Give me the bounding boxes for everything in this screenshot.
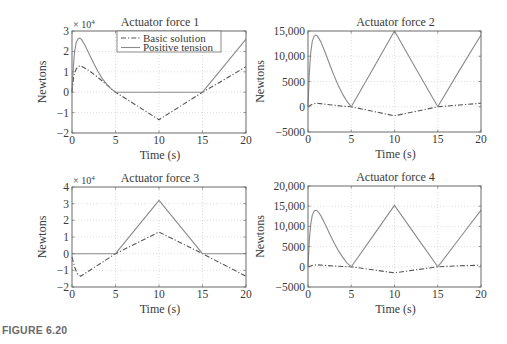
y-multiplier: × 104: [73, 18, 95, 30]
y-tick-label: 5000: [282, 76, 305, 88]
x-tick-label: 20: [475, 133, 487, 145]
subplot-title: Actuator force 1: [121, 15, 200, 29]
x-axis-label: Time (s): [375, 302, 416, 316]
y-axis-label: Newtons: [253, 60, 267, 103]
x-tick-label: 0: [69, 288, 75, 300]
x-tick-label: 15: [197, 134, 209, 146]
grid: [308, 31, 481, 132]
x-tick-label: 15: [197, 288, 209, 300]
y-tick-label: 3: [63, 198, 69, 210]
subplot-2: 05101520−50000500010,00015,000Actuator f…: [253, 15, 487, 161]
grid: [308, 186, 481, 287]
x-tick-label: 0: [305, 133, 311, 145]
subplot-title: Actuator force 3: [121, 171, 200, 185]
subplot-title: Actuator force 4: [356, 170, 435, 184]
y-tick-label: 1: [63, 66, 69, 78]
x-tick-label: 5: [348, 133, 354, 145]
x-tick-label: 15: [432, 133, 444, 145]
y-tick-label: 10,000: [273, 50, 305, 63]
y-tick-label: 1: [63, 231, 69, 243]
y-tick-label: −5000: [276, 126, 306, 138]
x-tick-label: 20: [240, 134, 252, 146]
y-tick-label: 0: [299, 261, 305, 273]
y-tick-label: 0: [63, 86, 69, 98]
figure-canvas: 05101520−2−10123× 104Actuator force 1Tim…: [0, 0, 507, 344]
figure-caption: FIGURE 6.20: [2, 324, 67, 336]
x-tick-label: 20: [475, 288, 487, 300]
subplot-1: 05101520−2−10123× 104Actuator force 1Tim…: [35, 15, 252, 162]
y-tick-label: 2: [63, 214, 69, 226]
x-axis-label: Time (s): [140, 148, 181, 162]
y-tick-label: 0: [299, 101, 305, 113]
x-tick-label: 5: [113, 288, 119, 300]
subplot-3: 05101520−2−101234× 104Actuator force 3Ti…: [35, 171, 252, 316]
legend: Basic solutionPositive tension: [117, 31, 221, 53]
y-tick-label: 10,000: [273, 220, 305, 233]
x-tick-label: 15: [432, 288, 444, 300]
y-tick-label: 15,000: [273, 200, 305, 213]
y-axis-label: Newtons: [35, 60, 49, 103]
basic-solution-line: [308, 265, 481, 273]
y-axis-label: Newtons: [253, 215, 267, 258]
y-tick-label: 4: [63, 181, 69, 193]
y-tick-label: 5000: [282, 241, 305, 253]
x-tick-label: 10: [389, 133, 401, 145]
x-tick-label: 10: [389, 288, 401, 300]
y-tick-label: 2: [63, 45, 69, 57]
grid: [72, 187, 246, 287]
y-tick-label: 15,000: [273, 25, 305, 38]
positive-tension-line: [308, 205, 481, 266]
y-tick-label: −2: [57, 281, 69, 293]
subplot-4: 05101520−50000500010,00015,00020,000Actu…: [253, 170, 487, 316]
legend-entry: Positive tension: [143, 41, 213, 53]
x-axis-label: Time (s): [140, 302, 181, 316]
y-tick-label: 0: [63, 248, 69, 260]
x-tick-label: 10: [153, 288, 165, 300]
y-tick-label: −1: [57, 264, 69, 276]
subplot-title: Actuator force 2: [356, 15, 435, 29]
positive-tension-line: [308, 31, 481, 107]
y-tick-label: 3: [63, 25, 69, 37]
y-tick-label: −2: [57, 127, 69, 139]
y-tick-label: −1: [57, 107, 69, 119]
y-axis-label: Newtons: [35, 215, 49, 258]
x-tick-label: 10: [153, 134, 165, 146]
x-tick-label: 5: [348, 288, 354, 300]
x-tick-label: 0: [69, 134, 75, 146]
x-tick-label: 0: [305, 288, 311, 300]
y-tick-label: 20,000: [273, 180, 305, 193]
x-axis-label: Time (s): [375, 147, 416, 161]
y-multiplier: × 104: [73, 174, 95, 186]
y-tick-label: −5000: [276, 281, 306, 293]
x-tick-label: 20: [240, 288, 252, 300]
x-tick-label: 5: [113, 134, 119, 146]
